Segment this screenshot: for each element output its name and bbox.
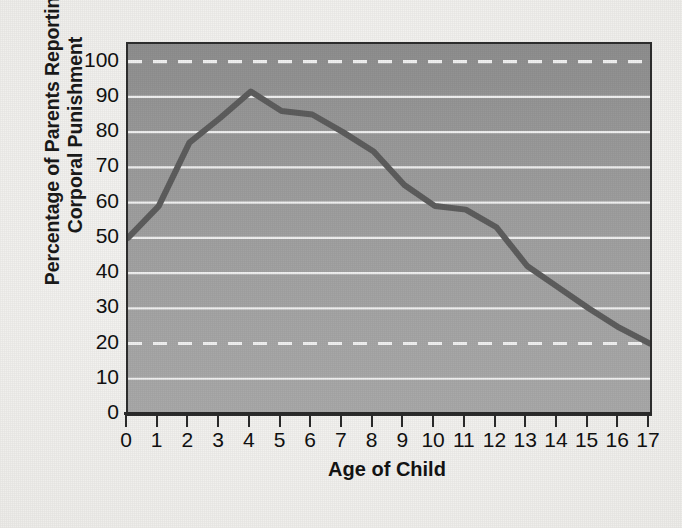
x-tick-3: [217, 414, 219, 427]
y-tick-label-90: 90: [55, 83, 119, 107]
y-axis-tick-labels: 0102030405060708090100: [55, 42, 119, 412]
x-tick-11: [463, 414, 465, 427]
x-axis-title: Age of Child: [126, 458, 648, 481]
x-tick-13: [524, 414, 526, 427]
y-tick-label-60: 60: [55, 189, 119, 213]
y-tick-label-80: 80: [55, 118, 119, 142]
y-tick-label-70: 70: [55, 153, 119, 177]
x-tick-8: [371, 414, 373, 427]
data-series-group: [128, 92, 650, 344]
x-tick-0: [125, 414, 127, 427]
gridlines: [128, 62, 650, 379]
x-tick-6: [309, 414, 311, 427]
y-tick-label-10: 10: [55, 365, 119, 389]
x-axis-tick-labels: 01234567891011121314151617: [126, 428, 648, 456]
chart-figure: Percentage of Parents Reporting Corporal…: [0, 0, 682, 528]
y-tick-label-40: 40: [55, 259, 119, 283]
x-tick-5: [279, 414, 281, 427]
y-tick-label-50: 50: [55, 224, 119, 248]
x-tick-17: [647, 414, 649, 427]
x-tick-2: [186, 414, 188, 427]
x-tick-15: [586, 414, 588, 427]
line-chart-svg: [128, 44, 650, 414]
figure-page: Percentage of Parents Reporting Corporal…: [0, 0, 682, 528]
y-tick-label-20: 20: [55, 330, 119, 354]
x-tick-7: [340, 414, 342, 427]
x-axis-ticks: [126, 414, 648, 428]
x-tick-label-17: 17: [626, 428, 670, 452]
x-tick-9: [401, 414, 403, 427]
y-tick-label-0: 0: [55, 400, 119, 424]
y-tick-label-30: 30: [55, 294, 119, 318]
x-tick-4: [248, 414, 250, 427]
x-tick-10: [432, 414, 434, 427]
x-tick-14: [555, 414, 557, 427]
data-series-line: [128, 92, 650, 344]
x-tick-1: [156, 414, 158, 427]
plot-area: [126, 42, 652, 416]
x-tick-16: [616, 414, 618, 427]
y-tick-label-100: 100: [55, 48, 119, 72]
x-tick-12: [494, 414, 496, 427]
